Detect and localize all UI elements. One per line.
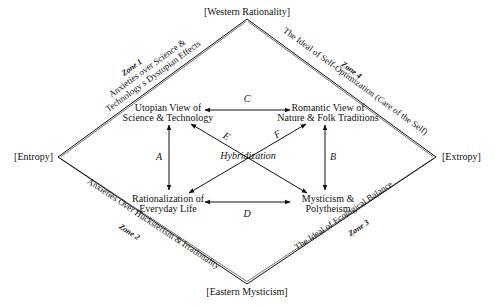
zone2-title: Zone 2 <box>117 221 142 242</box>
edge-label-D: D <box>242 208 251 219</box>
edge-label-C: C <box>244 93 251 104</box>
edge-label-B: B <box>330 151 336 162</box>
node-rationalization: Rationalization of Everyday Life <box>132 193 205 214</box>
pole-eastern-mysticism: [Eastern Mysticism] <box>206 286 287 297</box>
zone1-edge-inner <box>61 22 247 158</box>
node-rationalization-line2: Everyday Life <box>139 203 197 214</box>
zone1-desc-line1: Anxieties over Science & <box>107 37 187 99</box>
edge-label-A: A <box>155 151 163 162</box>
zone2-desc: Anxieties Over Hucksterism & Irrationali… <box>85 176 222 271</box>
pole-entropy: [Entropy] <box>14 151 53 162</box>
node-mysticism-line2: Polytheism <box>305 203 350 214</box>
hybridization-label: Hybridization <box>219 150 276 161</box>
zone3-title: Zone 3 <box>346 218 371 239</box>
edge-label-E: E <box>220 129 232 142</box>
node-romantic-line2: Nature & Folk Traditions <box>277 112 379 123</box>
diagram-canvas: [Western Rationality] [Entropy] [Extropy… <box>0 0 495 306</box>
node-romantic: Romantic View of Nature & Folk Tradition… <box>277 102 379 123</box>
node-utopian-line2: Science & Technology <box>123 112 214 123</box>
node-utopian: Utopian View of Science & Technology <box>123 102 214 123</box>
zone3-desc: The Ideal of Ecological Balance <box>292 179 394 252</box>
pole-western-rationality: [Western Rationality] <box>204 6 290 17</box>
node-mysticism: Mysticism & Polytheism <box>302 193 355 214</box>
pole-extropy: [Extropy] <box>442 151 481 162</box>
